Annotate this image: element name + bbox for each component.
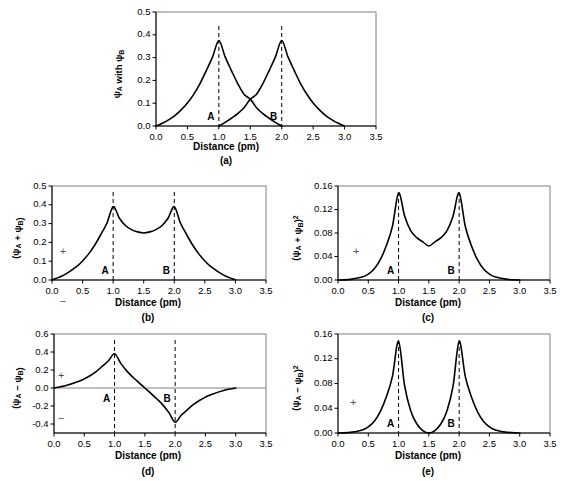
panel-b-y-tick-label: 0.0 — [33, 274, 46, 285]
panel-a-y-tick-label: 0.3 — [137, 51, 150, 62]
panel-c-curve — [338, 193, 520, 280]
panel-e-x-tick-label: 0.0 — [331, 438, 344, 449]
panel-a-caption: (a) — [220, 155, 232, 166]
panel-b-x-tick-label: 1.5 — [137, 285, 150, 296]
panel-e-nucleus-label-a: A — [387, 418, 394, 429]
panel-b-x-axis-title: Distance (pm) — [115, 297, 181, 308]
panel-a-x-axis-title: Distance (pm) — [193, 141, 259, 152]
panel-b-x-tick-label: 2.5 — [198, 285, 211, 296]
panel-c-x-axis-title: Distance (pm) — [395, 297, 461, 308]
panel-a-y-tick-label: 0.2 — [137, 74, 150, 85]
panel-e-y-tick-label: 0.08 — [314, 377, 333, 388]
panel-b-y-axis-title: (ψA + ψB) — [10, 217, 25, 259]
figure-molecular-orbital-wavefunctions: 0.00.10.20.30.40.50.00.51.01.52.02.53.03… — [0, 0, 568, 481]
panel-c-x-tick-label: 2.5 — [483, 285, 496, 296]
panel-e-x-tick-label: 2.5 — [483, 438, 496, 449]
panel-c-x-tick-label: 1.5 — [422, 285, 435, 296]
panel-c-caption: (c) — [422, 312, 434, 323]
panel-a-x-tick-label: 3.0 — [338, 131, 351, 142]
panel-a-x-tick-label: 2.0 — [275, 131, 288, 142]
panel-a-nucleus-label-b: B — [270, 111, 277, 122]
panel-a-y-tick-label: 0.0 — [137, 120, 150, 131]
panel-e-sign-plus: + — [350, 396, 356, 408]
panel-b-x-tick-label: 3.0 — [229, 285, 242, 296]
panel-d: -0.4-0.20.00.20.40.60.00.51.01.52.02.53.… — [8, 326, 288, 481]
panel-e-y-tick-label: 0.04 — [314, 402, 333, 413]
panel-b-curve — [52, 207, 235, 280]
panel-d-x-tick-label: 0.5 — [78, 438, 91, 449]
panel-e-y-axis-title: (ψA − ψB)2 — [290, 365, 304, 411]
panel-d-x-axis-title: Distance (pm) — [115, 450, 181, 461]
panel-a-x-tick-label: 0.0 — [149, 131, 162, 142]
panel-b-sign-minus: − — [60, 295, 66, 307]
panel-a-x-tick-label: 2.5 — [307, 131, 320, 142]
panel-d-x-tick-label: 2.0 — [169, 438, 182, 449]
panel-a-y-tick-label: 0.4 — [137, 28, 150, 39]
panel-b: 0.00.10.20.30.40.50.00.51.01.52.02.53.03… — [8, 180, 288, 325]
panel-d-x-tick-label: 0.0 — [47, 438, 60, 449]
panel-d-y-tick-label: -0.4 — [32, 418, 48, 429]
panel-c-y-tick-label: 0.12 — [314, 203, 333, 214]
panel-d-nucleus-label-a: A — [103, 393, 110, 404]
panel-e-x-tick-label: 0.5 — [362, 438, 375, 449]
panel-b-x-tick-label: 0.0 — [45, 285, 58, 296]
panel-a-nucleus-label-a: A — [207, 111, 214, 122]
panel-d-nucleus-label-b: B — [164, 393, 171, 404]
panel-d-y-axis-title: (ψA − ψB) — [10, 367, 25, 409]
panel-d-y-tick-label: 0.2 — [35, 364, 48, 375]
panel-c: 0.000.040.080.120.160.00.51.01.52.02.53.… — [288, 180, 568, 325]
panel-e-x-tick-label: 1.5 — [422, 438, 435, 449]
panel-b-x-tick-label: 2.0 — [168, 285, 181, 296]
panel-d-x-tick-label: 2.5 — [199, 438, 212, 449]
panel-d-y-tick-label: 0.4 — [35, 346, 48, 357]
panel-e-x-axis-title: Distance (pm) — [395, 450, 461, 461]
panel-e-x-tick-label: 3.5 — [543, 438, 556, 449]
panel-a-y-tick-label: 0.5 — [137, 6, 150, 17]
panel-c-y-tick-label: 0.00 — [314, 274, 333, 285]
panel-a-y-axis-title: ψA with ψB — [111, 50, 125, 99]
panel-b-y-tick-label: 0.2 — [33, 236, 46, 247]
panel-e-caption: (e) — [422, 466, 434, 477]
panel-d-caption: (d) — [142, 466, 155, 477]
panel-e-y-tick-label: 0.00 — [314, 427, 333, 438]
panel-d-sign-minus: − — [58, 412, 64, 424]
panel-b-x-tick-label: 3.5 — [259, 285, 272, 296]
panel-e-x-tick-label: 2.0 — [453, 438, 466, 449]
panel-a-x-tick-label: 3.5 — [369, 131, 382, 142]
panel-c-y-tick-label: 0.16 — [314, 180, 333, 191]
panel-d-x-tick-label: 3.0 — [229, 438, 242, 449]
panel-e: 0.000.040.080.120.160.00.51.01.52.02.53.… — [288, 326, 568, 481]
panel-b-x-tick-label: 0.5 — [76, 285, 89, 296]
panel-d-y-tick-label: 0.0 — [35, 382, 48, 393]
panel-b-caption: (b) — [142, 312, 155, 323]
panel-c-sign-plus: + — [353, 245, 359, 257]
panel-d-sign-plus: + — [58, 369, 64, 381]
panel-c-y-axis-title: (ψA + ψB)2 — [290, 215, 304, 261]
panel-c-y-tick-label: 0.08 — [314, 227, 333, 238]
panel-b-x-tick-label: 1.0 — [107, 285, 120, 296]
panel-e-curve — [338, 341, 520, 433]
panel-a-y-tick-label: 0.1 — [137, 97, 150, 108]
panel-b-nucleus-label-a: A — [102, 265, 109, 276]
panel-b-y-tick-label: 0.3 — [33, 217, 46, 228]
panel-c-x-tick-label: 2.0 — [453, 285, 466, 296]
panel-b-y-tick-label: 0.1 — [33, 255, 46, 266]
panel-c-x-tick-label: 0.5 — [362, 285, 375, 296]
panel-c-y-tick-label: 0.04 — [314, 250, 333, 261]
panel-b-sign-plus: + — [60, 245, 66, 257]
panel-c-x-tick-label: 3.0 — [513, 285, 526, 296]
panel-e-nucleus-label-b: B — [448, 418, 455, 429]
panel-b-y-tick-label: 0.4 — [33, 198, 46, 209]
panel-b-nucleus-label-b: B — [163, 265, 170, 276]
panel-d-x-tick-label: 3.5 — [259, 438, 272, 449]
panel-e-y-tick-label: 0.12 — [314, 352, 333, 363]
panel-b-y-tick-label: 0.5 — [33, 180, 46, 191]
panel-d-x-tick-label: 1.5 — [138, 438, 151, 449]
panel-e-y-tick-label: 0.16 — [314, 328, 333, 339]
panel-d-y-tick-label: -0.2 — [32, 400, 48, 411]
panel-e-x-tick-label: 3.0 — [513, 438, 526, 449]
panel-c-nucleus-label-a: A — [387, 265, 394, 276]
panel-c-nucleus-label-b: B — [448, 265, 455, 276]
panel-a: 0.00.10.20.30.40.50.00.51.01.52.02.53.03… — [108, 4, 408, 169]
panel-d-x-tick-label: 1.0 — [108, 438, 121, 449]
